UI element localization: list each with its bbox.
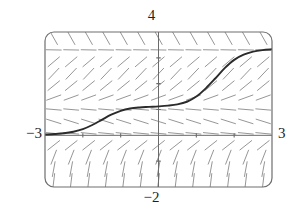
axis-label-ymax: 4	[0, 8, 303, 23]
slope-field-figure: 4 −2 −3 3	[0, 0, 303, 218]
axis-label-xmax: 3	[278, 126, 298, 141]
axis-label-xmin: −3	[12, 126, 42, 141]
axis-label-ymin: −2	[0, 190, 303, 205]
slope-field-canvas	[0, 0, 303, 218]
axes-layer	[45, 32, 272, 187]
